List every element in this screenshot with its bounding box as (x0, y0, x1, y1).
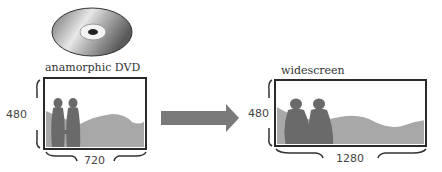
left-width-label: 720 (84, 155, 105, 166)
widescreen-caption: widescreen (281, 65, 345, 76)
height-brace-right (269, 80, 272, 146)
dvd-disc-icon (52, 8, 132, 56)
right-arrow-icon (161, 104, 239, 132)
diagram-canvas (0, 0, 442, 172)
right-width-label: 1280 (336, 153, 364, 164)
height-brace-left (37, 80, 40, 148)
anamorphic-caption: anamorphic DVD (45, 62, 140, 73)
right-height-label: 480 (248, 108, 269, 119)
widescreen-frame (275, 80, 426, 148)
left-height-label: 480 (6, 109, 27, 120)
anamorphic-frame (44, 78, 146, 150)
